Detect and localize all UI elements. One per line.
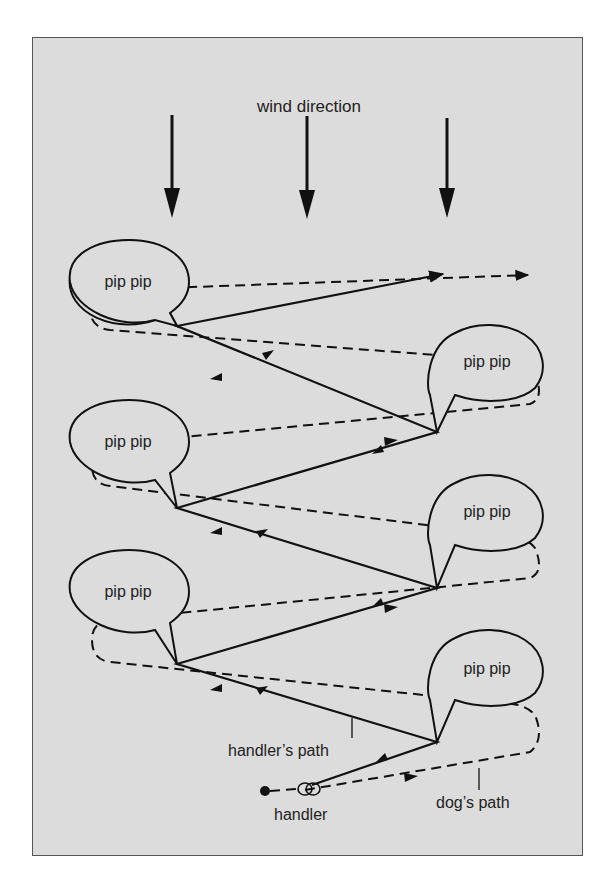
svg-text:pip pip: pip pip	[104, 583, 151, 600]
wind-direction-label: wind direction	[256, 97, 361, 116]
wind-arrows	[164, 115, 455, 219]
bubble-right-3	[428, 630, 543, 742]
dog-path-arrowheads	[210, 373, 418, 782]
wind-arrow-icon	[439, 118, 455, 218]
svg-text:pip pip: pip pip	[463, 660, 510, 677]
bubble-right-1	[428, 325, 543, 432]
bubble-right-2	[428, 475, 543, 588]
svg-text:pip pip: pip pip	[463, 353, 510, 370]
wind-arrow-icon	[164, 115, 180, 218]
handlers-path-label: handler’s path	[228, 742, 329, 759]
bubble-left-2	[70, 400, 189, 508]
handler-path-arrowheads	[256, 350, 388, 762]
svg-text:pip pip: pip pip	[463, 503, 510, 520]
wind-arrow-icon	[299, 116, 315, 219]
svg-text:pip pip: pip pip	[104, 433, 151, 450]
handlers-path	[177, 274, 443, 785]
dogs-path-label: dog’s path	[436, 794, 510, 811]
quartering-diagram: wind direction	[0, 0, 601, 896]
bubble-left-3	[70, 550, 189, 664]
handler-label: handler	[274, 806, 328, 823]
svg-text:pip pip: pip pip	[104, 273, 151, 290]
